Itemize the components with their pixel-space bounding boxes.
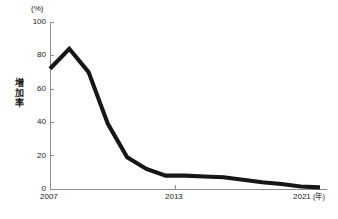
plot-area [0,0,338,219]
data-series-line [50,49,320,188]
chart-page: (%) 増 加 率 100 80 60 40 20 0 2007 2013 20… [0,0,338,219]
